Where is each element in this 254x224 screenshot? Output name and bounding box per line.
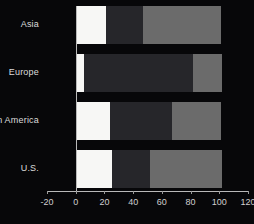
x-tick-40	[133, 191, 134, 194]
bar-segment-2-latin-america	[110, 102, 172, 140]
category-label-us: U.S.	[21, 164, 39, 173]
bar-segment-3-asia	[143, 6, 221, 44]
x-tick-label--20: -20	[40, 198, 53, 207]
x-tick-20	[104, 191, 105, 194]
bar-row-us: U.S.	[47, 150, 248, 188]
zero-baseline	[76, 6, 77, 191]
category-label-europe: Europe	[9, 68, 39, 77]
bar-row-europe: Europe	[47, 54, 248, 92]
bar-row-asia: Asia	[47, 6, 248, 44]
stacked-bar-latin-america	[76, 102, 221, 140]
x-tick-label-80: 80	[186, 198, 196, 207]
stacked-bar-us	[76, 150, 222, 188]
x-tick-label-100: 100	[212, 198, 227, 207]
x-tick-0	[76, 191, 77, 194]
x-tick-label-40: 40	[128, 198, 138, 207]
category-text: Europe	[9, 67, 39, 77]
stacked-bar-chart: Asia Europe	[0, 0, 254, 224]
bar-segment-2-asia	[106, 6, 143, 44]
bar-row-latin-america: Latin America	[47, 102, 248, 140]
stacked-bar-europe	[76, 54, 222, 92]
bar-segment-1-us	[76, 150, 112, 188]
bar-segment-1-europe	[76, 54, 85, 92]
plot-area: Asia Europe	[47, 6, 248, 196]
bar-segment-1-latin-america	[76, 102, 110, 140]
x-tick-label-20: 20	[99, 198, 109, 207]
category-text: Latin America	[0, 115, 39, 125]
x-tick--20	[47, 191, 48, 194]
bar-segment-3-us	[150, 150, 222, 188]
category-label-latin-america: Latin America	[0, 116, 39, 125]
bar-segment-1-asia	[76, 6, 106, 44]
x-tick-60	[162, 191, 163, 194]
x-tick-80	[191, 191, 192, 194]
category-label-asia: Asia	[21, 20, 39, 29]
bars-container: Asia Europe	[47, 6, 248, 191]
x-tick-100	[219, 191, 220, 194]
x-tick-label-120: 120	[240, 198, 254, 207]
category-text: U.S.	[21, 163, 39, 173]
x-tick-120	[248, 191, 249, 194]
stacked-bar-asia	[76, 6, 221, 44]
category-text: Asia	[21, 19, 39, 29]
bar-segment-3-latin-america	[172, 102, 221, 140]
bar-segment-2-europe	[84, 54, 193, 92]
x-axis-line	[47, 191, 248, 192]
x-tick-label-0: 0	[73, 198, 78, 207]
x-tick-label-60: 60	[157, 198, 167, 207]
bar-segment-2-us	[112, 150, 151, 188]
bar-segment-3-europe	[193, 54, 222, 92]
